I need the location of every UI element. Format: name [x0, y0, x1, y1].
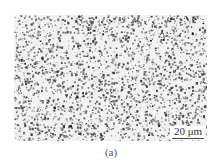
panel-caption: (a)	[0, 146, 222, 158]
scale-bar-line	[172, 138, 204, 139]
scale-bar: 20 μm	[170, 126, 206, 140]
scale-bar-label: 20 μm	[170, 126, 206, 137]
micrograph-image	[14, 15, 207, 141]
